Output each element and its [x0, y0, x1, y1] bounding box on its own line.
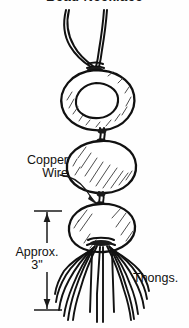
label-approx-dimension: Approx. 3"	[6, 246, 68, 272]
bead-top-ring	[61, 70, 134, 130]
label-copper-wire-line2: Wire	[42, 166, 68, 180]
label-approx-line1: Approx.	[15, 245, 58, 259]
label-thongs: Thongs.	[133, 272, 178, 285]
necklace-diagram: Bead Necklace	[0, 0, 189, 328]
label-approx-line2: 3"	[6, 259, 68, 272]
label-copper-wire: Copper Wire	[8, 154, 68, 180]
bead-middle	[67, 141, 136, 193]
neck-cord	[64, 10, 107, 73]
label-copper-wire-line1: Copper	[27, 153, 68, 167]
